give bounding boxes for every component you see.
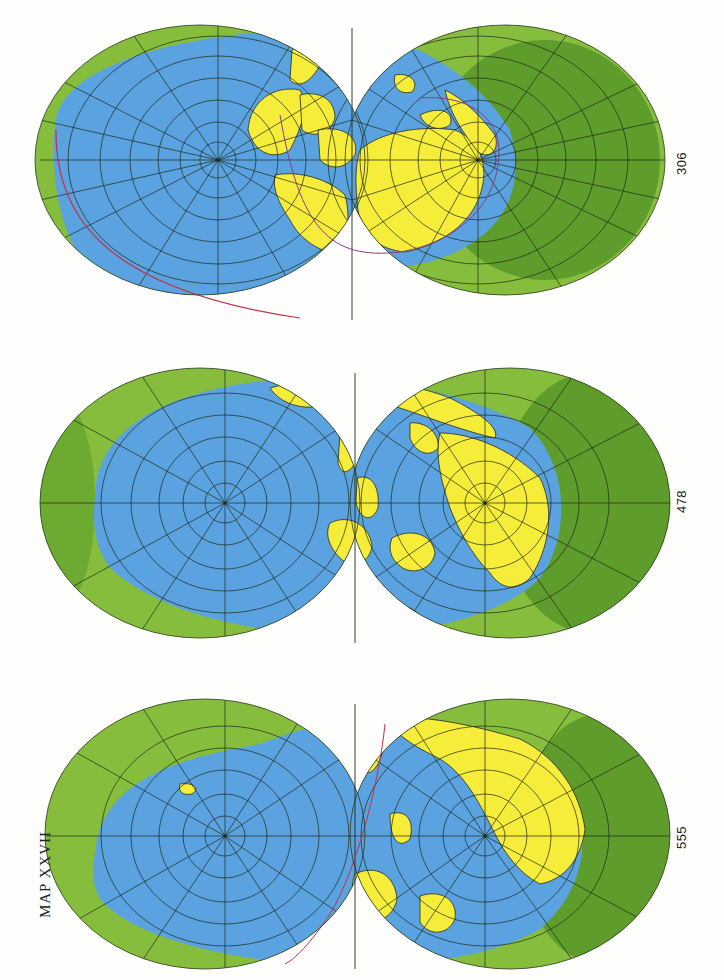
plate-label-306: 306 bbox=[674, 152, 689, 175]
map-555-drawing bbox=[0, 664, 724, 980]
atlas-page: 306 478 555 MAP XXVII bbox=[0, 0, 724, 980]
plate-label-555: 555 bbox=[674, 826, 689, 849]
map-478-drawing bbox=[0, 338, 724, 658]
map-title: MAP XXVII bbox=[37, 815, 54, 935]
paleomap-306 bbox=[0, 20, 724, 330]
map-306-drawing bbox=[0, 20, 724, 330]
plate-label-478: 478 bbox=[674, 490, 689, 513]
paleomap-555 bbox=[0, 664, 724, 980]
paleomap-478 bbox=[0, 338, 724, 658]
